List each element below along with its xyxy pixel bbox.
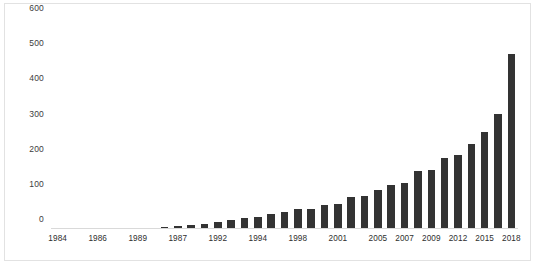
bar-series [51,18,518,229]
x-axis-slot: 1984 [51,234,64,248]
bar-slot [438,18,451,229]
bar[interactable] [441,158,449,229]
x-axis-slot: 2007 [398,234,411,248]
x-axis-slot [345,234,358,248]
x-axis-slot: 1987 [171,234,184,248]
bar-slot [104,18,117,229]
x-axis-slot: 2018 [505,234,518,248]
x-axis-slot: 2005 [371,234,384,248]
bar-slot [278,18,291,229]
bar[interactable] [468,144,476,229]
y-axis-tick-label: 0 [39,214,44,224]
y-axis-tick-label: 400 [29,73,44,83]
x-axis-slot [224,234,237,248]
bar-slot [465,18,478,229]
x-axis-slot: 1992 [211,234,224,248]
bar-slot [211,18,224,229]
bar-slot [371,18,384,229]
bar[interactable] [267,214,275,229]
bar-slot [118,18,131,229]
x-axis-tick-label: 2018 [502,234,521,243]
x-axis-slot: 1986 [91,234,104,248]
bar[interactable] [508,54,516,229]
bar-slot [358,18,371,229]
bar[interactable] [294,209,302,229]
bar[interactable] [321,205,329,229]
x-axis-slot [144,234,157,248]
bar-slot [184,18,197,229]
bar-slot [345,18,358,229]
x-axis-slot: 2001 [331,234,344,248]
bar[interactable] [374,190,382,229]
bar[interactable] [281,212,289,229]
bar-slot [318,18,331,229]
bar-slot [51,18,64,229]
bar-slot [385,18,398,229]
bar-slot [398,18,411,229]
bar-slot [158,18,171,229]
bar-slot [144,18,157,229]
y-axis-tick-label: 600 [29,3,44,13]
bar-slot [78,18,91,229]
bar[interactable] [347,197,355,229]
bar[interactable] [481,132,489,229]
bar-slot [91,18,104,229]
x-axis-slot: 1989 [131,234,144,248]
bar-slot [411,18,424,229]
bar-slot [305,18,318,229]
plot-area: 6005004003002001000 [51,18,518,229]
bar[interactable] [307,209,315,229]
x-axis-slot [265,234,278,248]
bar-slot [171,18,184,229]
bar-slot [451,18,464,229]
bar[interactable] [361,196,369,229]
bar-slot [505,18,518,229]
x-axis-slot [104,234,117,248]
bar-slot [238,18,251,229]
bar[interactable] [454,155,462,229]
bar[interactable] [387,185,395,229]
bar-slot [491,18,504,229]
x-axis-slot: 1998 [291,234,304,248]
bar-slot [251,18,264,229]
figure-caption [0,264,539,275]
x-axis-slot [305,234,318,248]
x-axis-slot: 1994 [251,234,264,248]
x-axis-slot [184,234,197,248]
y-axis-tick-label: 100 [29,179,44,189]
bar[interactable] [334,204,342,229]
axis-baseline [51,228,518,229]
y-axis-tick-label: 500 [29,38,44,48]
bar-slot [425,18,438,229]
bar[interactable] [414,171,422,229]
y-axis-tick-label: 200 [29,144,44,154]
bar[interactable] [401,183,409,229]
x-axis-slot [64,234,77,248]
bar-slot [291,18,304,229]
y-axis-tick-label: 300 [29,109,44,119]
x-axis-slot: 2009 [425,234,438,248]
bar-slot [64,18,77,229]
x-axis-slot: 2015 [478,234,491,248]
bar-slot [331,18,344,229]
bar-slot [265,18,278,229]
x-axis: 1984198619891987199219941998200120052007… [51,234,518,248]
chart-card: 6005004003002001000 19841986198919871992… [4,3,531,261]
x-axis-slot: 2012 [451,234,464,248]
bar[interactable] [494,114,502,229]
bar-slot [198,18,211,229]
bar-slot [131,18,144,229]
bar[interactable] [428,170,436,229]
bar-slot [478,18,491,229]
bar-slot [224,18,237,229]
